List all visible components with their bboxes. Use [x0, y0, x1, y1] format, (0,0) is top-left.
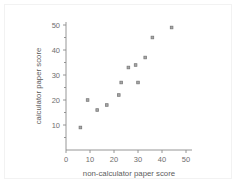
y-tick-label: 20 — [52, 96, 60, 105]
data-point — [137, 81, 140, 84]
data-point — [151, 36, 154, 39]
data-point — [106, 104, 109, 107]
x-tick-label: 0 — [64, 155, 68, 164]
data-point — [127, 66, 130, 69]
scatter-chart-figure: 01020304050 1020304050 non-calculator pa… — [0, 0, 236, 183]
x-axis-title: non-calculator paper score — [83, 169, 175, 178]
y-tick-label: 40 — [52, 46, 60, 55]
data-point — [118, 94, 121, 97]
y-tick-label: 50 — [52, 21, 60, 30]
x-axis-ticks: 01020304050 — [64, 150, 190, 164]
x-tick-label: 40 — [158, 155, 166, 164]
data-point — [144, 56, 147, 59]
x-tick-label: 20 — [110, 155, 118, 164]
data-point — [120, 81, 123, 84]
data-point-group — [79, 26, 173, 129]
data-point — [79, 126, 82, 129]
x-tick-label: 50 — [182, 155, 190, 164]
scatter-plot: 01020304050 1020304050 non-calculator pa… — [0, 0, 236, 183]
x-tick-label: 10 — [86, 155, 94, 164]
y-axis-ticks: 1020304050 — [52, 21, 66, 138]
data-point — [170, 26, 173, 29]
data-point — [86, 99, 89, 102]
y-tick-label: 10 — [52, 121, 60, 130]
axis-lines — [66, 22, 192, 150]
x-tick-label: 30 — [134, 155, 142, 164]
y-tick-label: 30 — [52, 71, 60, 80]
data-point — [134, 64, 137, 67]
data-point — [96, 109, 99, 112]
y-axis-title: calculator paper score — [34, 48, 43, 125]
